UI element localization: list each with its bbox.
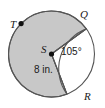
label-point-r: R: [84, 91, 91, 102]
center-point-marker: [49, 51, 54, 56]
point-marker-T: [19, 21, 24, 26]
label-point-t: T: [10, 19, 16, 30]
label-point-q: Q: [80, 9, 88, 20]
label-central-angle: 105°: [61, 47, 82, 57]
circle-sector-figure: T Q R S 105° 8 in.: [0, 0, 105, 108]
label-radius-measure: 8 in.: [34, 65, 53, 75]
label-center-s: S: [41, 44, 47, 55]
